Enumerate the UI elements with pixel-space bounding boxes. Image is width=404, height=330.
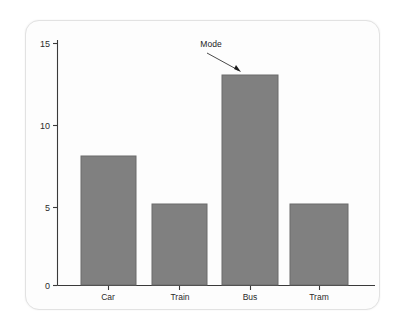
annotation-mode-arrow-head bbox=[234, 65, 241, 72]
x-label-car: Car bbox=[101, 292, 115, 302]
bar-bus[interactable] bbox=[222, 75, 278, 285]
x-label-tram: Tram bbox=[309, 292, 329, 302]
x-label-train: Train bbox=[170, 292, 189, 302]
bar-tram[interactable] bbox=[290, 204, 348, 285]
annotation-mode-arrow-line bbox=[207, 53, 238, 70]
x-label-bus: Bus bbox=[243, 292, 258, 302]
y-tick-label-15: 15 bbox=[40, 39, 50, 49]
screenshot-root: 0 5 10 15 Car Train Bus Tram Mode bbox=[0, 0, 404, 330]
bar-car[interactable] bbox=[81, 156, 136, 285]
bar-train[interactable] bbox=[152, 204, 207, 285]
y-tick-label-0: 0 bbox=[45, 281, 50, 291]
bar-chart-plot: 0 5 10 15 Car Train Bus Tram Mode bbox=[0, 0, 404, 330]
annotation-mode-label: Mode bbox=[200, 39, 222, 49]
y-tick-label-5: 5 bbox=[45, 203, 50, 213]
y-tick-label-10: 10 bbox=[40, 121, 50, 131]
